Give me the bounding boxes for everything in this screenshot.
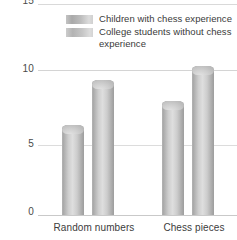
bar-random-numbers-college (92, 84, 114, 215)
legend-item-college: College students without chess experienc… (66, 26, 237, 50)
y-tick-label-10: 10 (0, 63, 34, 74)
grouped-bar-chart: 15 10 5 0 Number of items recalled Rando… (0, 0, 237, 240)
legend-swatch-icon-children (66, 15, 93, 24)
x-tick-label-random-numbers: Random numbers (48, 222, 140, 233)
bar-random-numbers-children (62, 129, 84, 215)
chart-legend: Children with chess experience College s… (66, 13, 237, 51)
legend-item-children: Children with chess experience (66, 13, 237, 25)
legend-swatch-icon-college (66, 28, 93, 37)
y-tick-label-15: 15 (0, 0, 34, 6)
y-tick-label-0: 0 (0, 206, 34, 217)
bar-chess-pieces-college (192, 70, 214, 215)
legend-label-college: College students without chess experienc… (99, 26, 237, 50)
y-tick-label-5: 5 (0, 138, 34, 149)
axis-baseline (38, 215, 237, 216)
bar-chess-pieces-children (162, 105, 184, 215)
gridline-15 (38, 4, 237, 5)
x-tick-label-chess-pieces: Chess pieces (148, 222, 237, 233)
legend-label-children: Children with chess experience (99, 13, 232, 25)
